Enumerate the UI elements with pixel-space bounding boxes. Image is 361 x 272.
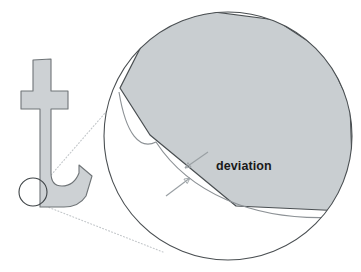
diagram-canvas: deviation [0,0,361,272]
magnified-view-group [104,12,352,260]
deviation-diagram: deviation [0,0,361,272]
deviation-label: deviation [216,159,272,173]
letter-t-glyph [21,59,92,207]
glyph-group [21,59,92,207]
